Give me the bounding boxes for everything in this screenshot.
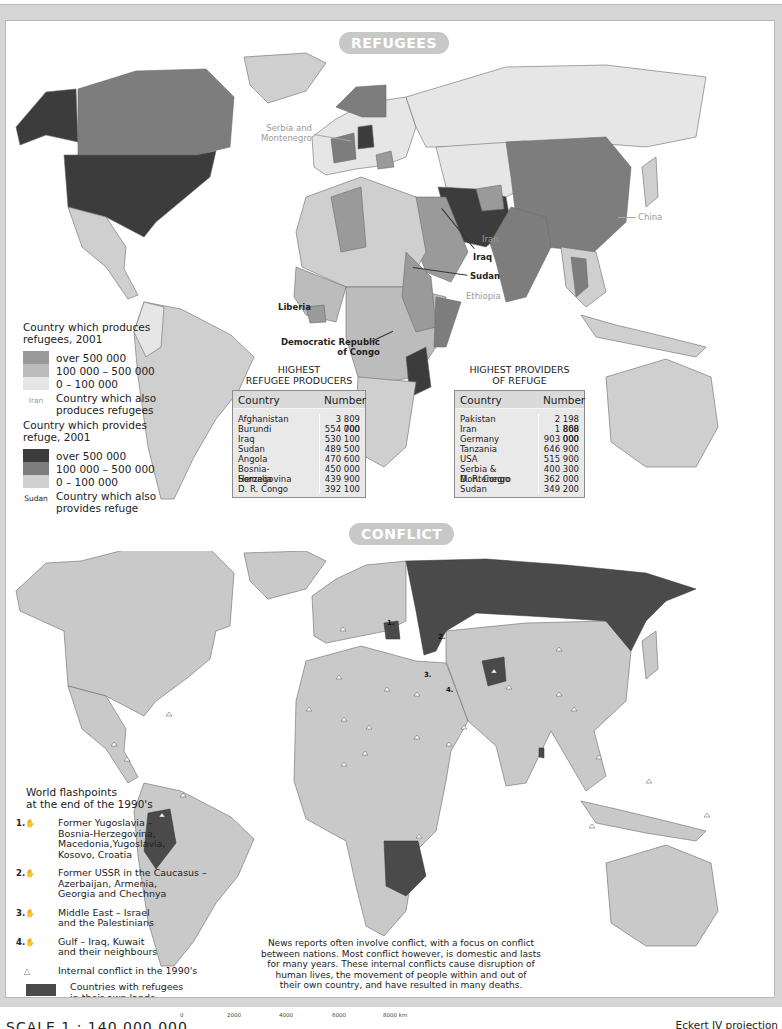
swatch	[23, 351, 49, 364]
table-row: Pakistan2 198 800	[455, 414, 584, 424]
swatch	[23, 449, 49, 462]
swatch	[23, 364, 49, 377]
legend-note-also-produces: Iran Country which also produces refugee…	[23, 392, 156, 416]
swatch	[23, 377, 49, 390]
legend-row-0-100k: 0 – 100 000	[23, 475, 156, 488]
flashpoint-item: 2.✋ Former USSR in the Caucasus – Azerba…	[6, 868, 207, 900]
swatch	[26, 984, 56, 996]
table-row: Bosnia-Herzegovina450 000	[233, 464, 365, 474]
table-row: Burundi554 000	[233, 424, 365, 434]
flashpoint-item: 4.✋ Gulf – Iraq, Kuwait and their neighb…	[6, 937, 207, 958]
flashpoint-4: 4.	[446, 686, 454, 694]
scale-tick: 8000 km	[383, 1012, 407, 1018]
scale-label: SCALE 1 : 140 000 000	[6, 1019, 188, 1029]
label-china: China	[638, 212, 662, 222]
table-highest-providers-of-refuge: HIGHEST PROVIDERS OF REFUGE Country Numb…	[454, 365, 585, 498]
legend-refuge-providers: Country which provides refuge, 2001 over…	[23, 419, 156, 514]
flashpoint-item: 1.✋ Former Yugoslavia – Bosnia-Herzegovi…	[6, 818, 207, 860]
label-drc: Democratic Republic of Congo	[281, 337, 380, 357]
label-serbia-montenegro: Serbia and Montenegro	[261, 123, 312, 143]
flashpoint-3: 3.	[424, 671, 432, 679]
table-header: Country Number	[233, 391, 365, 409]
footer: SCALE 1 : 140 000 000 0 2000 4000 6000 8…	[0, 1007, 782, 1029]
legend-row-100k-500k: 100 000 – 500 000	[23, 364, 156, 377]
legend-row-over-500k: over 500 000	[23, 351, 156, 364]
table-row: Sudan489 500	[233, 444, 365, 454]
legend-row-100k-500k: 100 000 – 500 000	[23, 462, 156, 475]
internal-conflict-icon: △	[6, 966, 38, 977]
table-row: USA515 900	[455, 454, 584, 464]
flashpoint-2: 2.	[438, 633, 446, 641]
flashpoint-icon: ✋	[25, 909, 35, 918]
flashpoint-icon: ✋	[25, 819, 35, 828]
table-header: Country Number	[455, 391, 584, 409]
conflict-section-title: CONFLICT	[349, 523, 454, 545]
scale-tick: 2000	[227, 1012, 241, 1018]
table-row: Iraq530 100	[233, 434, 365, 444]
label-iraq: Iraq	[473, 252, 492, 262]
conflict-caption: News reports often involve conflict, wit…	[256, 938, 546, 991]
legend-internal-conflict: △ Internal conflict in the 1990's	[6, 966, 207, 977]
swatch	[23, 462, 49, 475]
table-highest-refugee-producers: HIGHEST REFUGEE PRODUCERS Country Number…	[232, 365, 366, 498]
label-liberia: Liberia	[278, 302, 311, 312]
table-row: D. R. Congo392 100	[233, 484, 365, 494]
table-row: Somalia439 900	[233, 474, 365, 484]
flashpoint-icon: ✋	[25, 869, 35, 878]
legend-row-0-100k: 0 – 100 000	[23, 377, 156, 390]
table-row: Iran1 868 000	[455, 424, 584, 434]
label-iran: Iran	[482, 234, 499, 244]
table-row: Sudan349 200	[455, 484, 584, 494]
legend-note-also-provides: Sudan Country which also provides refuge	[23, 490, 156, 514]
map-panel: REFUGEES	[5, 20, 775, 998]
label-sudan: Sudan	[470, 271, 500, 281]
legend-refugee-producers: Country which produces refugees, 2001 ov…	[23, 321, 156, 416]
legend-world-flashpoints: World flashpoints at the end of the 1990…	[6, 786, 207, 998]
table-row: D. R. Congo362 000	[455, 474, 584, 484]
label-ethiopia: Ethiopia	[466, 291, 501, 301]
scale-tick: 6000	[332, 1012, 346, 1018]
table-row: Germany903 000	[455, 434, 584, 444]
scale-tick: 4000	[279, 1012, 293, 1018]
table-row: Tanzania646 900	[455, 444, 584, 454]
legend-refugees-own-lands: Countries with refugees in their own lan…	[6, 982, 207, 998]
projection-label: Eckert IV projection	[676, 1019, 778, 1029]
scale-tick: 0	[180, 1012, 184, 1018]
table-row: Angola470 600	[233, 454, 365, 464]
table-row: Serbia & Montenegro400 300	[455, 464, 584, 474]
leader-china	[618, 217, 636, 218]
flashpoint-icon: ✋	[25, 938, 35, 947]
swatch	[23, 475, 49, 488]
table-row: Afghanistan3 809 700	[233, 414, 365, 424]
legend-row-over-500k: over 500 000	[23, 449, 156, 462]
flashpoint-item: 3.✋ Middle East – Israel and the Palesti…	[6, 908, 207, 929]
flashpoint-1: 1.	[387, 619, 395, 627]
